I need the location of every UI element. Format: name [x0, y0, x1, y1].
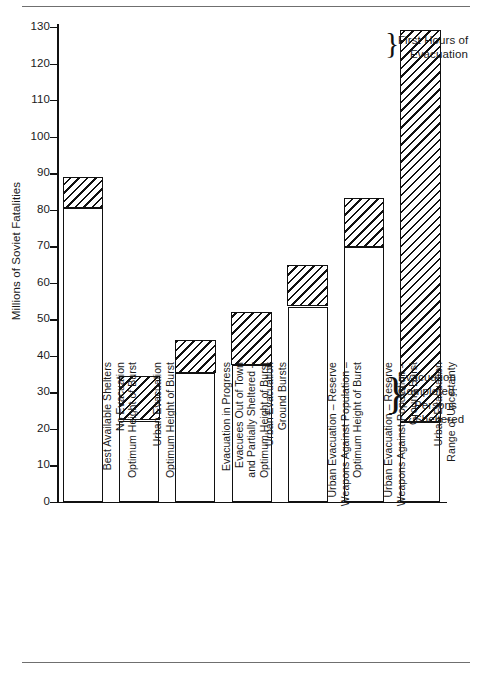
y-tick-label-90: 90	[20, 167, 50, 179]
annotation-evac-line-4: Sheltered	[398, 412, 482, 426]
y-tick-110: 110	[0, 94, 50, 106]
y-tick-40: 40	[0, 350, 50, 362]
y-tick-80: 80	[0, 204, 50, 216]
y-tick-mark-80	[50, 210, 57, 211]
y-tick-mark-60	[50, 283, 57, 284]
y-axis-line	[57, 24, 59, 503]
y-tick-label-10: 10	[20, 459, 50, 471]
y-tick-mark-20	[50, 429, 57, 430]
y-tick-mark-90	[50, 173, 57, 174]
category-label-2: Urban EvacuationOptimum Height of Burst	[151, 362, 176, 512]
category-label-5: Urban Evacuation – ReserveWeapons Agains…	[326, 362, 364, 512]
category-label-4: Urban EvacuationGround Bursts	[263, 362, 288, 512]
annotation-evac-line-3: Persons	[398, 398, 482, 412]
category-label-5-line-2: Weapons Against Population –	[338, 362, 351, 512]
bar-5-lower-segment	[288, 307, 328, 502]
y-tick-120: 120	[0, 58, 50, 70]
bar-1-lower-segment	[63, 208, 103, 502]
y-tick-mark-10	[50, 465, 57, 466]
annotation-evacuation-completed: Evacuation Completed; Persons Sheltered	[398, 370, 482, 426]
y-tick-mark-110	[50, 100, 57, 101]
y-tick-label-110: 110	[20, 94, 50, 106]
y-tick-20: 20	[0, 423, 50, 435]
category-label-1: Best Available SheltersNo EvacuationOpti…	[101, 362, 139, 512]
y-tick-label-40: 40	[20, 350, 50, 362]
y-tick-100: 100	[0, 131, 50, 143]
y-tick-mark-40	[50, 356, 57, 357]
annotation-evac-line-2: Completed;	[398, 384, 482, 398]
y-tick-mark-70	[50, 246, 57, 247]
y-tick-label-80: 80	[20, 204, 50, 216]
y-tick-90: 90	[0, 167, 50, 179]
category-label-3-line-2: Evacuees Out of Town	[232, 362, 245, 512]
annotation-first-hours-line-2: Evacuation	[398, 47, 482, 61]
bar-5-hatched-segment	[287, 265, 328, 306]
y-tick-70: 70	[0, 240, 50, 252]
y-tick-60: 60	[0, 277, 50, 289]
y-tick-label-60: 60	[20, 277, 50, 289]
category-label-3-line-3: and Partially Sheltered –	[245, 362, 258, 512]
category-label-4-line-2: Ground Bursts	[276, 362, 289, 512]
annotation-evac-line-1: Evacuation	[398, 370, 482, 384]
y-tick-10: 10	[0, 459, 50, 471]
y-tick-label-30: 30	[20, 386, 50, 398]
category-label-5-line-1: Urban Evacuation – Reserve	[326, 362, 339, 512]
category-label-1-line-3: Optimum Height of Burst	[126, 362, 139, 512]
annotation-first-hours-line-1: First Hours of	[398, 33, 482, 47]
category-label-4-line-1: Urban Evacuation	[263, 362, 276, 512]
bar-4-hatched-segment	[231, 312, 272, 364]
y-tick-label-70: 70	[20, 240, 50, 252]
y-tick-50: 50	[0, 313, 50, 325]
category-label-3-line-1: Evacuation in Progress	[220, 362, 233, 512]
y-tick-mark-100	[50, 137, 57, 138]
y-tick-label-20: 20	[20, 423, 50, 435]
y-tick-30: 30	[0, 386, 50, 398]
y-tick-mark-130	[50, 27, 57, 28]
annotation-first-hours: First Hours of Evacuation	[398, 33, 482, 61]
bar-chart: Millions of Soviet Fatalities 0102030405…	[0, 0, 482, 675]
y-tick-label-120: 120	[20, 58, 50, 70]
y-tick-130: 130	[0, 21, 50, 33]
bar-3-hatched-segment	[175, 340, 216, 373]
bar-1-hatched-segment	[63, 177, 104, 207]
y-tick-mark-30	[50, 392, 57, 393]
category-label-1-line-2: No Evacuation	[113, 362, 126, 512]
category-label-5-line-3: Optimum Height of Burst	[351, 362, 364, 512]
y-tick-label-50: 50	[20, 313, 50, 325]
bar-6-hatched-segment	[344, 198, 385, 246]
category-label-1-line-1: Best Available Shelters	[101, 362, 114, 512]
y-tick-mark-0	[50, 502, 57, 503]
category-label-2-line-2: Optimum Height of Burst	[163, 362, 176, 512]
bar-3-lower-segment	[175, 373, 215, 502]
y-tick-mark-120	[50, 64, 57, 65]
y-tick-0: 0	[0, 496, 50, 508]
y-tick-mark-50	[50, 319, 57, 320]
y-tick-label-100: 100	[20, 131, 50, 143]
y-tick-label-0: 0	[20, 496, 50, 508]
category-label-2-line-1: Urban Evacuation	[151, 362, 164, 512]
y-tick-label-130: 130	[20, 21, 50, 33]
